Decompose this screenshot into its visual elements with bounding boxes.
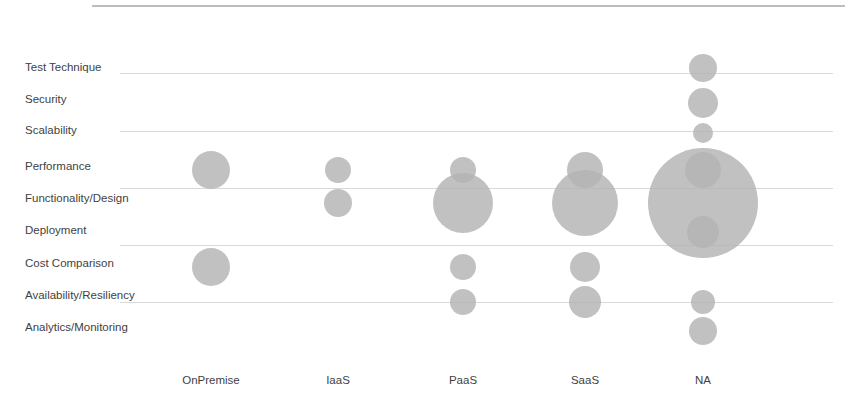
bubble-na-analytics-monitoring <box>689 317 717 345</box>
y-axis-label-functionality-design: Functionality/Design <box>25 192 129 204</box>
y-axis-label-deployment: Deployment <box>25 224 87 236</box>
bubble-saas-cost-comparison <box>570 252 600 282</box>
bubble-na-test-technique <box>689 54 717 82</box>
bubble-series <box>192 54 758 345</box>
bubble-chart: Test TechniqueSecurityScalabilityPerform… <box>0 0 849 418</box>
y-axis-label-scalability: Scalability <box>25 124 77 136</box>
x-axis-label-onpremise: OnPremise <box>182 374 240 386</box>
x-axis-labels: OnPremiseIaaSPaaSSaaSNA <box>182 374 711 386</box>
bubble-saas-functionality-design <box>552 170 618 236</box>
y-axis-label-performance: Performance <box>25 160 91 172</box>
y-axis-label-analytics-monitoring: Analytics/Monitoring <box>25 321 128 333</box>
x-axis-label-iaas: IaaS <box>326 374 350 386</box>
bubble-na-availability-resiliency <box>691 290 715 314</box>
y-axis-label-cost-comparison: Cost Comparison <box>25 257 114 269</box>
x-axis-label-saas: SaaS <box>571 374 599 386</box>
x-axis-label-paas: PaaS <box>449 374 477 386</box>
x-axis-label-na: NA <box>695 374 711 386</box>
bubble-onpremise-cost-comparison <box>192 248 230 286</box>
chart-canvas: Test TechniqueSecurityScalabilityPerform… <box>0 0 849 418</box>
bubble-saas-availability-resiliency <box>569 286 601 318</box>
y-axis-label-availability-resiliency: Availability/Resiliency <box>25 289 135 301</box>
y-axis-label-test-technique: Test Technique <box>25 61 102 73</box>
bubble-paas-cost-comparison <box>450 254 476 280</box>
bubble-iaas-functionality-design <box>324 189 352 217</box>
bubble-onpremise-performance <box>192 151 230 189</box>
bubble-na-deployment <box>687 216 719 248</box>
y-axis-label-security: Security <box>25 93 67 105</box>
bubble-na-scalability <box>693 123 713 143</box>
bubble-paas-functionality-design <box>433 173 493 233</box>
bubble-iaas-performance <box>325 157 351 183</box>
y-axis-labels: Test TechniqueSecurityScalabilityPerform… <box>25 61 135 333</box>
bubble-na-security <box>688 88 718 118</box>
bubble-paas-availability-resiliency <box>450 289 476 315</box>
